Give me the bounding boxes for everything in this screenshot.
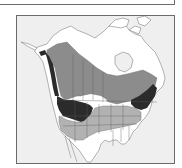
top-panel-box bbox=[0, 0, 175, 5]
range-map-frame bbox=[16, 15, 175, 164]
north-america-range-map bbox=[17, 16, 174, 163]
